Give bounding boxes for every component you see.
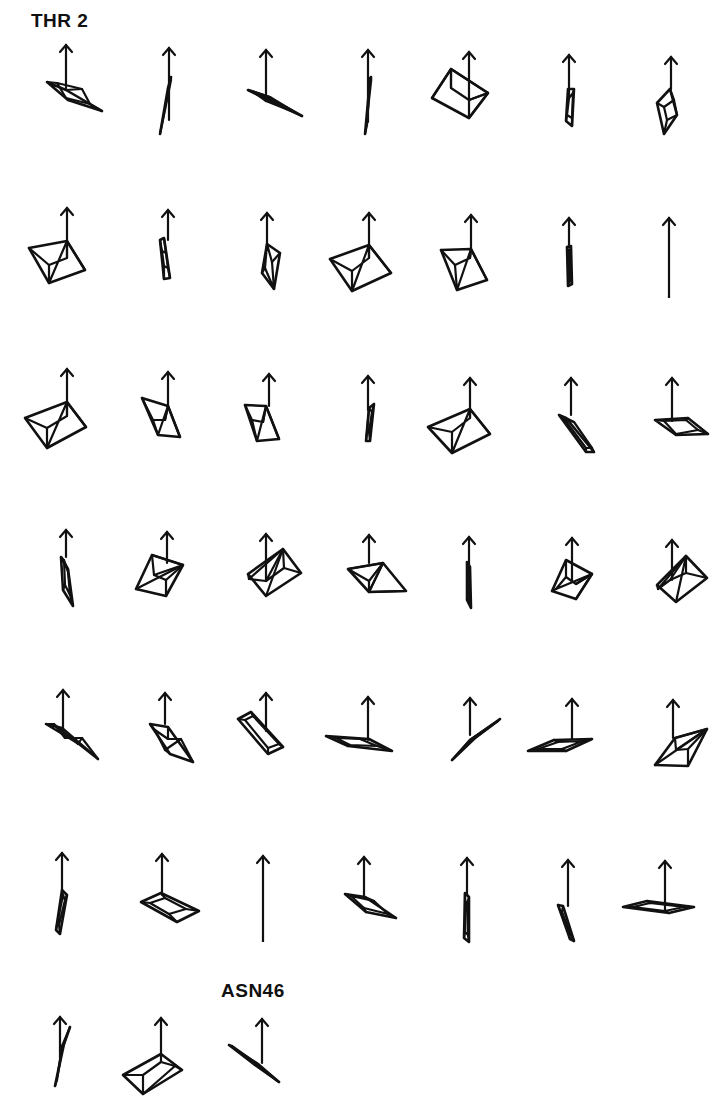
glyph-bevel-edge	[655, 420, 664, 421]
flag-glyph-9	[160, 210, 174, 279]
flag-glyph-42	[623, 861, 694, 913]
flag-glyph-37	[141, 854, 199, 922]
glyph-outer-frame	[428, 409, 490, 453]
glyph-bevel-edge	[464, 932, 465, 938]
glyph-bevel-edge	[229, 1045, 232, 1046]
glyph-bevel-edge	[573, 89, 574, 93]
flag-glyph-20	[559, 378, 594, 452]
glyph-bevel-edge	[570, 246, 571, 250]
glyph-bevel-edge	[657, 585, 658, 589]
flag-glyph-19	[428, 378, 490, 453]
flag-glyph-38	[257, 856, 269, 941]
flag-glyph-5	[432, 52, 488, 118]
flag-glyph-grid	[0, 0, 717, 1103]
glyph-outer-frame	[25, 402, 86, 448]
glyph-bevel-edge	[256, 1063, 258, 1064]
glyph-bevel-edge	[29, 248, 49, 265]
flag-glyph-8	[29, 208, 85, 283]
glyph-bevel-edge	[263, 406, 266, 422]
flag-glyph-33	[452, 698, 500, 760]
glyph-outer-frame	[46, 724, 98, 759]
flag-glyph-22	[60, 530, 73, 606]
flag-glyph-27	[552, 538, 592, 599]
glyph-outer-frame	[136, 555, 183, 596]
glyph-bevel-edge	[467, 562, 468, 570]
flag-glyph-44	[123, 1018, 182, 1094]
flag-glyph-15	[25, 369, 86, 448]
glyph-bevel-edge	[165, 406, 168, 420]
glyph-bevel-edge	[67, 241, 85, 270]
flag-glyph-13	[563, 218, 575, 286]
glyph-bevel-edge	[432, 69, 451, 98]
glyph-bevel-edge	[296, 113, 302, 116]
flag-glyph-17	[245, 374, 279, 441]
glyph-bevel-edge	[452, 758, 454, 760]
glyph-bevel-edge	[248, 90, 252, 91]
glyph-bevel-edge	[266, 100, 268, 101]
flag-glyph-10	[261, 213, 280, 289]
flag-glyph-32	[326, 697, 392, 751]
glyph-bevel-edge	[369, 245, 391, 273]
flag-glyph-43	[54, 1017, 70, 1086]
glyph-inner-frame	[162, 251, 168, 268]
glyph-bevel-edge	[59, 925, 60, 934]
glyph-inner-frame	[568, 250, 571, 282]
glyph-bevel-edge	[369, 432, 370, 441]
glyph-bevel-edge	[562, 906, 563, 912]
flag-glyph-40	[461, 858, 473, 942]
glyph-bevel-edge	[348, 745, 350, 746]
flag-glyph-23	[136, 532, 183, 596]
flag-glyph-34	[528, 699, 592, 751]
glyph-bevel-edge	[468, 935, 469, 942]
flag-glyph-25	[348, 535, 406, 592]
glyph-bevel-edge	[62, 1044, 64, 1046]
flag-glyph-28	[657, 540, 707, 602]
glyph-inner-frame	[455, 249, 471, 290]
flag-glyph-3	[248, 50, 302, 116]
glyph-inner-frame	[150, 898, 186, 914]
glyph-outer-frame	[141, 893, 199, 922]
glyph-bevel-edge	[569, 934, 570, 939]
flag-glyph-29	[46, 690, 98, 759]
glyph-bevel-edge	[62, 1047, 63, 1050]
flag-glyph-4	[362, 50, 374, 134]
glyph-bevel-edge	[164, 238, 166, 253]
glyph-bevel-edge	[66, 89, 82, 90]
glyph-bevel-edge	[568, 282, 569, 286]
glyph-bevel-edge	[470, 409, 490, 434]
glyph-bevel-edge	[141, 902, 150, 903]
flag-glyph-6	[563, 55, 575, 126]
glyph-bevel-edge	[168, 406, 180, 437]
glyph-inner-frame	[454, 721, 498, 758]
flag-glyph-16	[142, 372, 180, 437]
glyph-bevel-edge	[369, 591, 406, 592]
flag-glyph-30	[150, 693, 193, 762]
glyph-bevel-edge	[467, 595, 468, 600]
flag-glyph-18	[362, 376, 374, 441]
glyph-inner-frame	[664, 100, 677, 120]
glyph-bevel-edge	[47, 82, 57, 83]
glyph-bevel-edge	[66, 98, 68, 100]
glyph-bevel-edge	[266, 406, 279, 439]
flag-glyph-14	[663, 218, 675, 297]
flag-glyph-2	[160, 48, 175, 134]
glyph-bevel-edge	[498, 719, 500, 721]
flag-glyph-41	[558, 860, 574, 941]
glyph-bevel-edge	[255, 1065, 258, 1066]
glyph-bevel-edge	[238, 719, 245, 720]
glyph-outer-frame	[657, 89, 677, 134]
glyph-bevel-edge	[686, 418, 688, 420]
flag-glyph-7	[657, 57, 677, 134]
flag-glyph-31	[238, 693, 283, 754]
glyph-bevel-edge	[366, 432, 367, 441]
glyph-bevel-edge	[471, 249, 487, 280]
flag-glyph-36	[56, 853, 68, 934]
glyph-bevel-edge	[571, 280, 572, 284]
glyph-bevel-edge	[370, 77, 371, 78]
glyph-inner-frame	[465, 900, 468, 935]
glyph-outer-frame	[238, 712, 283, 754]
glyph-bevel-edge	[266, 96, 270, 97]
glyph-inner-frame	[232, 1046, 276, 1080]
glyph-bevel-edge	[470, 600, 471, 608]
flag-glyph-1	[47, 45, 102, 111]
